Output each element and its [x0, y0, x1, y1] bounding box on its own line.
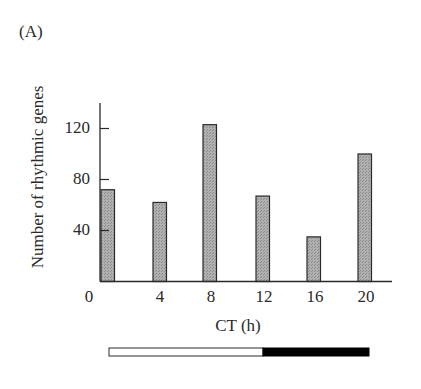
bar-ct-4: [153, 202, 167, 281]
plot-area: [0, 0, 421, 389]
bar-ct-12: [256, 196, 270, 281]
light-phase-bar: [109, 348, 263, 356]
bars: [101, 125, 372, 282]
bar-ct-8: [203, 125, 217, 282]
bar-ct-20: [358, 154, 372, 282]
bar-ct-0: [101, 190, 115, 282]
dark-phase-bar: [263, 348, 369, 356]
bar-ct-16: [307, 237, 321, 282]
